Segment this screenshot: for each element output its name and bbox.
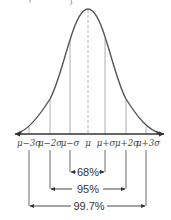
interval-95: 95% <box>51 183 125 195</box>
axis-label-mu-minus-sigma: μ−σ <box>61 138 81 148</box>
axis-label-mu: μ <box>85 138 91 148</box>
axis-label-mu-plus-sigma: μ+σ <box>97 138 117 148</box>
interval-68: 68% <box>71 166 104 178</box>
interval-99-7-label: 99.7% <box>73 200 104 212</box>
interval-drop-lines <box>29 150 146 206</box>
interval-99-7: 99.7% <box>30 200 145 212</box>
interval-95-label: 95% <box>77 183 99 195</box>
axis-label-mu-minus-2sigma: μ−2σ <box>38 138 63 148</box>
axis-labels: μ−3σ μ−2σ μ−σ μ μ+σ μ+2σ μ+3σ <box>17 138 161 148</box>
bell-curve <box>18 9 160 133</box>
sigma-guide-lines <box>29 39 146 134</box>
interval-68-label: 68% <box>77 166 99 178</box>
clipped-title-fragment <box>30 0 72 5</box>
normal-distribution-diagram: μ−3σ μ−2σ μ−σ μ μ+σ μ+2σ μ+3σ 68% 95% 99… <box>0 0 171 220</box>
axis-label-mu-plus-3sigma: μ+3σ <box>136 138 161 148</box>
